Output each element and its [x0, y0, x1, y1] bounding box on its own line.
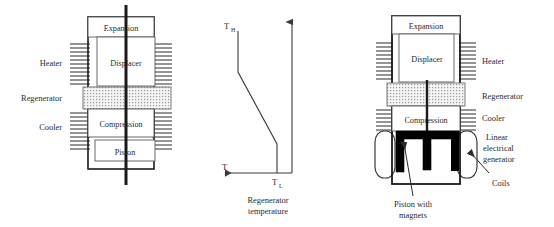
left-compression-label: Compression [99, 120, 142, 129]
chart-caption-line1: Regenerator [248, 196, 289, 205]
label-temperature-high: T [224, 21, 230, 31]
piston-callout-leader [404, 143, 413, 196]
piston-callout-line2: magnets [399, 211, 427, 220]
magnet-arm-right [451, 131, 459, 171]
right-heater-fins-right [459, 43, 476, 79]
right-regenerator-label: Regenerator [482, 92, 523, 101]
left-regenerator-label: Regenerator [21, 94, 62, 103]
generator-label-line3: generator [483, 155, 515, 164]
temperature-profile-line [238, 31, 277, 173]
right-cooler-label: Cooler [482, 114, 505, 123]
coils-callout-label: Coils [492, 179, 510, 188]
right-displacer-label: Displacer [411, 55, 443, 64]
chart-caption-line2: temperature [248, 207, 288, 216]
right-heater-label: Heater [482, 57, 505, 66]
generator-label-line1: Linear [486, 133, 508, 142]
heater-fins-left [70, 44, 90, 84]
label-temperature-low: T [272, 177, 278, 187]
label-temperature-low-subscript: L [279, 183, 283, 189]
right-cooler-fins-right [459, 110, 476, 130]
label-temperature-high-subscript: H [231, 27, 236, 33]
label-temperature: T [222, 162, 228, 172]
left-heater-label: Heater [40, 59, 63, 68]
piston-callout-line1: Piston with [394, 200, 433, 209]
stirling-engine-figure: Expansion Displacer Compression Piston H… [0, 0, 554, 227]
right-expansion-label: Expansion [409, 22, 444, 31]
left-expansion-label: Expansion [104, 24, 139, 33]
right-engine-diagram: Expansion Displacer Compression Piston w… [375, 16, 523, 220]
generator-label-line2: electrical [483, 144, 514, 153]
right-cooler-fins-left [376, 110, 393, 130]
left-engine-diagram: Expansion Displacer Compression Piston H… [21, 5, 172, 185]
left-cooler-label: Cooler [39, 123, 62, 132]
regenerator-temperature-chart: T H T T L Regenerator temperature [222, 21, 292, 216]
right-heater-fins-left [376, 43, 393, 79]
cooler-fins-left [70, 113, 90, 149]
